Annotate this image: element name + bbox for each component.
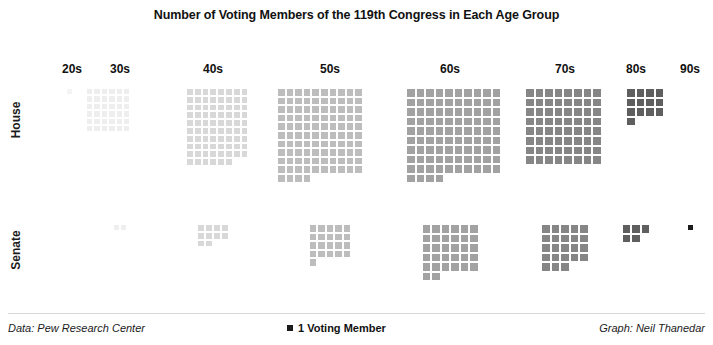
member-cell (93, 125, 100, 132)
member-cell (337, 114, 346, 123)
member-cell (337, 122, 346, 131)
member-cell (320, 140, 329, 149)
member-cell (343, 224, 352, 233)
member-cell (343, 233, 352, 242)
member-cell (563, 146, 573, 156)
member-cell (583, 88, 593, 98)
member-cell (241, 104, 249, 112)
member-cell (311, 105, 320, 114)
member-cell (186, 150, 194, 158)
member-cell (329, 148, 338, 157)
member-cell (317, 241, 326, 250)
member-cell (592, 136, 602, 146)
member-cell (450, 253, 460, 263)
member-cell (317, 250, 326, 259)
member-cell (570, 243, 580, 253)
member-cell (93, 110, 100, 117)
member-cell (431, 272, 441, 282)
member-cell (194, 135, 202, 143)
member-cell (416, 136, 426, 146)
member-cell (277, 131, 286, 140)
member-cell (425, 98, 435, 108)
member-cell (209, 127, 217, 135)
member-cell (311, 88, 320, 97)
member-cell (454, 117, 464, 127)
member-cell (444, 98, 454, 108)
member-cell (311, 114, 320, 123)
member-cell (286, 105, 295, 114)
member-cell (346, 131, 355, 140)
member-cell (454, 88, 464, 98)
member-cell (108, 103, 115, 110)
member-cell (579, 243, 589, 253)
member-cell (645, 98, 655, 108)
member-cell (354, 148, 363, 157)
member-cell (241, 88, 249, 96)
member-cell (541, 224, 551, 234)
member-cell (563, 107, 573, 117)
member-cell (525, 146, 535, 156)
member-cell (108, 118, 115, 125)
member-cell (525, 88, 535, 98)
member-cell (93, 95, 100, 102)
member-cell (354, 114, 363, 123)
member-cell (225, 96, 233, 104)
member-cell (554, 98, 564, 108)
member-cell (535, 98, 545, 108)
member-cell (554, 117, 564, 127)
member-cell (303, 122, 312, 131)
member-cell (563, 117, 573, 127)
member-cell (425, 88, 435, 98)
member-cell (217, 135, 225, 143)
member-cell (101, 103, 108, 110)
member-cell (425, 155, 435, 165)
member-cell (329, 157, 338, 166)
member-cell (194, 96, 202, 104)
member-cell (202, 135, 210, 143)
member-cell (343, 241, 352, 250)
member-cell (473, 117, 483, 127)
member-cell (592, 146, 602, 156)
member-cell (202, 119, 210, 127)
member-cell (217, 150, 225, 158)
member-cell (492, 136, 502, 146)
member-cell (123, 103, 130, 110)
member-cell (311, 122, 320, 131)
member-cell (329, 105, 338, 114)
member-cell (444, 117, 454, 127)
member-cell (473, 155, 483, 165)
member-cell (303, 174, 312, 183)
member-cell (354, 140, 363, 149)
member-cell (194, 143, 202, 151)
member-cell (116, 95, 123, 102)
member-cell (492, 126, 502, 136)
member-cell (311, 140, 320, 149)
member-cell (592, 155, 602, 165)
member-cell (573, 146, 583, 156)
member-cell (570, 253, 580, 263)
member-cell (116, 88, 123, 95)
member-cell (101, 118, 108, 125)
member-cell (535, 88, 545, 98)
member-cell (277, 114, 286, 123)
member-cell (186, 119, 194, 127)
member-cell (473, 136, 483, 146)
member-cell (233, 127, 241, 135)
member-cell (544, 146, 554, 156)
member-cell (186, 135, 194, 143)
member-cell (320, 122, 329, 131)
member-cell (303, 157, 312, 166)
member-cell (194, 127, 202, 135)
member-cell (241, 111, 249, 119)
member-cell (320, 105, 329, 114)
member-cell (101, 110, 108, 117)
member-cell (337, 88, 346, 97)
member-cell (277, 174, 286, 183)
member-cell (209, 158, 217, 166)
member-cell (101, 88, 108, 95)
member-cell (416, 88, 426, 98)
member-cell (541, 262, 551, 272)
member-cell (277, 122, 286, 131)
waffle-block-senate-90s (687, 224, 694, 231)
member-cell (636, 98, 646, 108)
